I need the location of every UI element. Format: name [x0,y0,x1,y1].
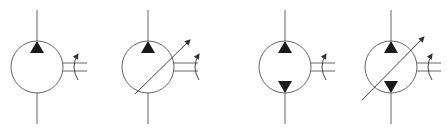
rotation-arrow-icon [428,54,432,80]
flow-triangle-up-icon [384,41,398,53]
rotation-arrow-icon [322,54,326,80]
shaft-icon [174,63,198,71]
rotation-arrow-icon [74,54,78,80]
variable-motor-bidirectional-symbol [362,10,441,124]
flow-triangle-up-icon [278,41,292,53]
variable-displacement-arrow-icon [135,40,190,94]
rotation-arrow-icon [195,54,199,80]
flow-triangle-down-icon [278,81,292,93]
fixed-motor-bidirectional-symbol [259,10,335,124]
flow-triangle-up-icon [141,41,155,53]
shaft-icon [417,63,441,71]
flow-triangle-up-icon [30,41,44,53]
variable-motor-unidirectional-symbol [122,10,199,124]
hydraulic-symbols-diagram: Hydraulic motor symbols [0,0,448,135]
fixed-motor-unidirectional-symbol [11,10,87,124]
shaft-icon [63,63,87,71]
flow-triangle-down-icon [384,81,398,93]
shaft-icon [311,63,335,71]
